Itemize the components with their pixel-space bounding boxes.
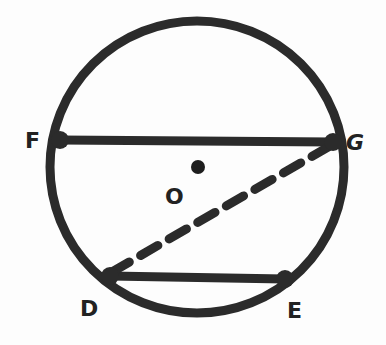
center-point-o — [191, 160, 205, 174]
chord-de — [110, 276, 285, 279]
label-e: E — [287, 298, 302, 323]
point-f — [51, 131, 69, 149]
point-g — [324, 133, 342, 151]
label-g: G — [346, 130, 364, 155]
chord-fg — [60, 140, 333, 142]
segment-dg-dashed — [112, 146, 330, 272]
diagram-canvas: F G O D E — [0, 0, 386, 345]
geometry-diagram: F G O D E — [0, 0, 386, 345]
point-e — [276, 270, 294, 288]
label-f: F — [25, 128, 40, 153]
point-d — [101, 267, 119, 285]
label-d: D — [80, 296, 98, 321]
label-o: O — [165, 184, 184, 209]
